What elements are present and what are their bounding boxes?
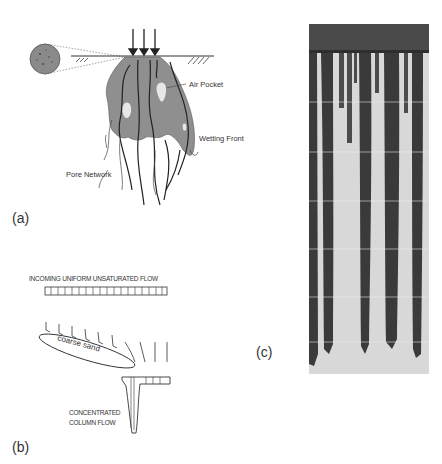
panel-c [309,24,429,374]
panel-c-label: (c) [256,344,272,360]
concentrated-label: CONCENTRATED [69,409,120,416]
wetting-front-label: Wetting Front [199,134,244,143]
pore-network-label: Pore Network [66,170,111,179]
column-flow-diagram [0,250,200,464]
panel-b-label: (b) [12,439,29,455]
soil-magnifier-circle [30,44,60,74]
column-flow-shape [122,377,170,433]
panel-b: INCOMING UNIFORM UNSATURATED FLOW coarse… [0,250,200,464]
incoming-flow-label: INCOMING UNIFORM UNSATURATED FLOW [29,275,158,282]
fingered-flow-photo [309,24,429,374]
wetting-front-diagram [0,0,260,250]
infiltration-arrows-icon [129,29,159,55]
coarse-sand-lens [37,328,138,374]
column-flow-label: COLUMN FLOW [69,419,116,426]
panel-a: Air Pocket Wetting Front Pore Network (a… [0,0,260,250]
air-pocket-label: Air Pocket [189,80,223,89]
panel-a-label: (a) [12,210,29,226]
